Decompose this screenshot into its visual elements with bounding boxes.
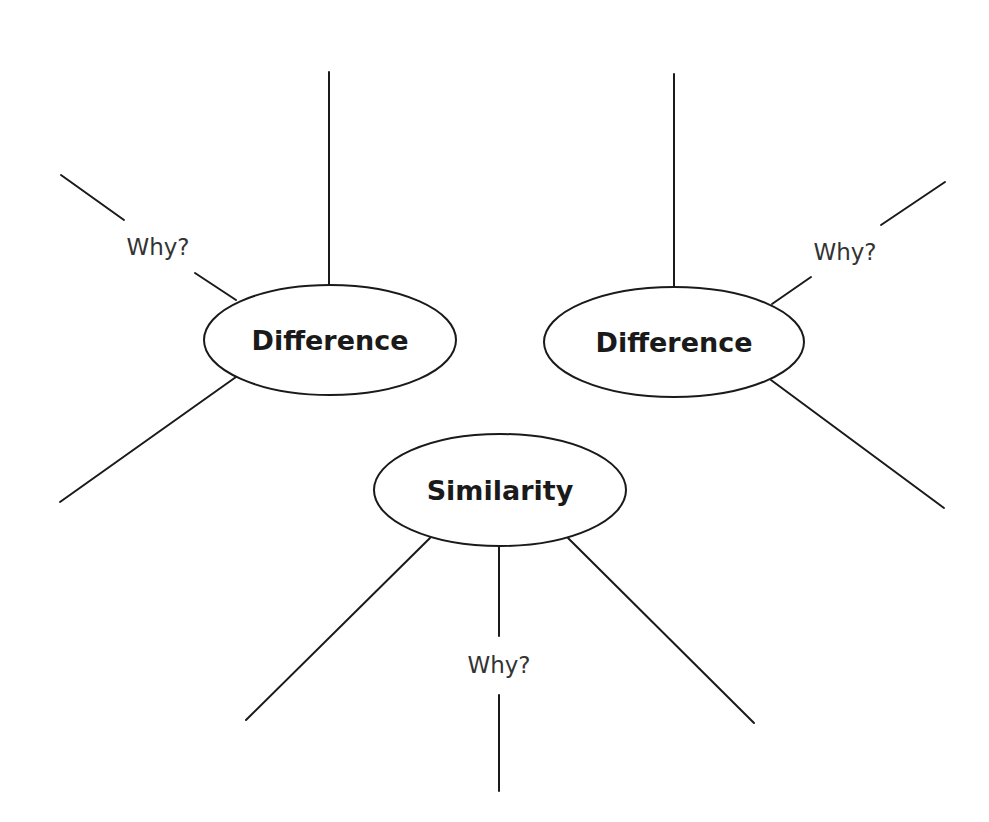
branch-line xyxy=(246,538,430,720)
branch-line xyxy=(772,277,811,304)
why-label: Why? xyxy=(126,234,189,260)
diagram-canvas: Difference Difference Similarity Why? Wh… xyxy=(0,0,989,822)
branch-line xyxy=(60,377,236,502)
node-difference-left: Difference xyxy=(204,285,456,395)
why-label: Why? xyxy=(467,652,530,678)
node-label: Similarity xyxy=(427,475,574,506)
why-label: Why? xyxy=(813,239,876,265)
branch-line xyxy=(61,175,124,220)
branch-line xyxy=(568,538,754,723)
node-label: Difference xyxy=(251,325,408,356)
branch-line xyxy=(881,182,945,225)
node-similarity: Similarity xyxy=(374,434,626,546)
node-label: Difference xyxy=(595,327,752,358)
branch-line xyxy=(195,273,236,300)
node-difference-right: Difference xyxy=(544,287,804,397)
branch-line xyxy=(771,380,944,508)
